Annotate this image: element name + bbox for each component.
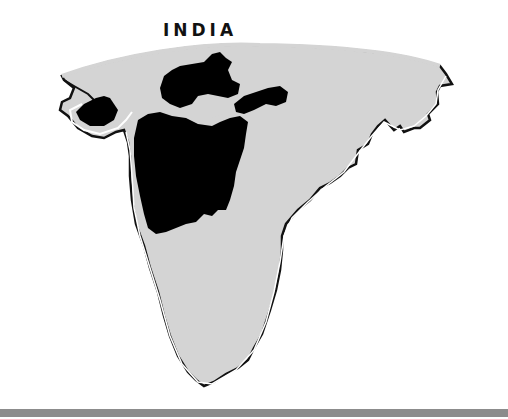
bottom-rule <box>0 409 508 417</box>
india-map <box>0 0 508 419</box>
